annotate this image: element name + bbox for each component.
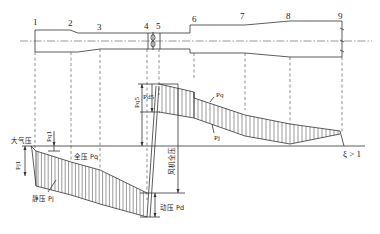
label-pq: Pq (216, 91, 224, 99)
label-atmospheric-pressure: 大气压 (11, 136, 32, 145)
discharge-side-pressure (159, 84, 344, 146)
label-total-pressure: 全压 Pq (74, 152, 98, 161)
label-xi: ξ > 1 (343, 149, 361, 159)
duct-pressure-diagram: 1 2 3 4 5 6 7 8 9 (0, 0, 380, 234)
section-number-8: 8 (286, 11, 291, 21)
label-pq1: Pq1 (45, 131, 53, 142)
section-number-1: 1 (33, 17, 38, 27)
label-pd5: Pd5 (143, 93, 154, 101)
label-fan-total-pressure: 风机全压 (167, 147, 176, 175)
hatching-discharge (162, 85, 338, 144)
section-number-4: 4 (144, 21, 149, 31)
label-dynamic-pressure: 动压 Pd (160, 204, 184, 212)
section-number-6: 6 (192, 14, 197, 24)
section-number-3: 3 (97, 22, 102, 32)
label-pj: Pj (214, 134, 220, 142)
section-number-9: 9 (338, 11, 343, 21)
section-number-5: 5 (156, 21, 161, 31)
leader-pq (210, 97, 214, 102)
label-pj1: Pj1 (14, 160, 22, 170)
duct-outline (35, 21, 342, 57)
section-number-7: 7 (240, 11, 245, 21)
label-static-pressure: 静压 Pj (32, 194, 54, 203)
label-pq5: Pq5 (133, 97, 141, 108)
section-number-2: 2 (68, 18, 73, 28)
